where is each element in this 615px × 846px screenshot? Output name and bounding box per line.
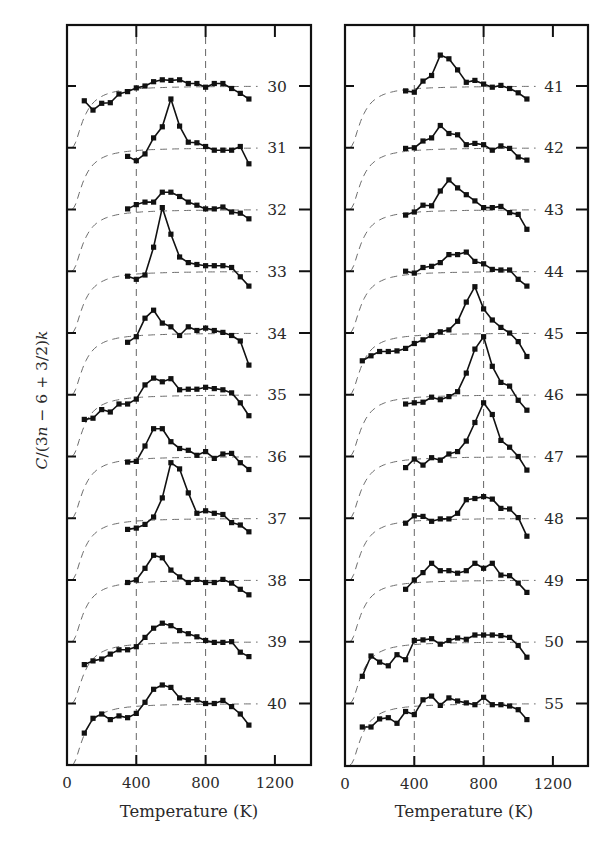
square-marker (177, 695, 182, 700)
square-marker (524, 158, 529, 163)
square-marker (438, 568, 443, 573)
square-marker (472, 284, 477, 289)
square-marker (168, 376, 173, 381)
square-marker (125, 647, 130, 652)
x-axis-label-left: Temperature (K) (120, 802, 259, 821)
square-marker (455, 389, 460, 394)
square-marker (507, 445, 512, 450)
curve-n33: 33 (67, 205, 311, 333)
curve-label: 33 (267, 263, 287, 281)
square-marker (160, 190, 165, 195)
square-marker (125, 580, 130, 585)
square-marker (412, 209, 417, 214)
square-marker (194, 453, 199, 458)
square-marker (377, 716, 382, 721)
curve-label: 42 (544, 139, 564, 157)
square-marker (446, 177, 451, 182)
left-panel: 303132333435363738394004008001200 (62, 25, 311, 792)
square-marker (142, 83, 147, 88)
square-marker (220, 148, 225, 153)
curve-n45: 45 (345, 284, 588, 394)
curve-label: 39 (267, 633, 287, 651)
square-marker (116, 713, 121, 718)
harmonic-reference-line (350, 580, 535, 641)
data-line (362, 696, 527, 727)
square-marker (246, 284, 251, 289)
square-marker (246, 413, 251, 418)
square-marker (498, 83, 503, 88)
square-marker (142, 700, 147, 705)
square-marker (516, 154, 521, 159)
square-marker (360, 724, 365, 729)
harmonic-reference-line (350, 272, 535, 333)
square-marker (134, 644, 139, 649)
square-marker (238, 274, 243, 279)
square-marker (464, 142, 469, 147)
square-marker (186, 200, 191, 205)
square-marker (134, 526, 139, 531)
square-marker (246, 592, 251, 597)
square-marker (420, 637, 425, 642)
square-marker (498, 325, 503, 330)
square-marker (220, 698, 225, 703)
square-marker (194, 81, 199, 86)
harmonic-reference-line (72, 642, 257, 703)
square-marker (464, 250, 469, 255)
square-marker (429, 694, 434, 699)
data-line (128, 192, 249, 219)
square-marker (516, 277, 521, 282)
square-marker (99, 656, 104, 661)
square-marker (455, 571, 460, 576)
square-marker (203, 580, 208, 585)
square-marker (194, 328, 199, 333)
square-marker (177, 77, 182, 82)
square-marker (472, 141, 477, 146)
square-marker (429, 519, 434, 524)
square-marker (368, 653, 373, 658)
square-marker (368, 724, 373, 729)
square-marker (490, 148, 495, 153)
curve-label: 44 (544, 263, 564, 281)
square-marker (507, 86, 512, 91)
square-marker (516, 454, 521, 459)
square-marker (455, 252, 460, 257)
square-marker (90, 658, 95, 663)
square-marker (420, 337, 425, 342)
square-marker (194, 697, 199, 702)
harmonic-reference-line (350, 704, 535, 765)
square-marker (524, 468, 529, 473)
square-marker (472, 496, 477, 501)
square-marker (229, 581, 234, 586)
square-marker (186, 324, 191, 329)
square-marker (160, 205, 165, 210)
square-marker (238, 522, 243, 527)
curve-n38: 38 (67, 553, 311, 642)
square-marker (481, 205, 486, 210)
square-marker (177, 446, 182, 451)
square-marker (194, 634, 199, 639)
square-marker (220, 387, 225, 392)
x-tick-label: 1200 (534, 775, 572, 793)
square-marker (412, 712, 417, 717)
square-marker (498, 380, 503, 385)
square-marker (524, 408, 529, 413)
square-marker (220, 330, 225, 335)
square-marker (490, 317, 495, 322)
square-marker (464, 637, 469, 642)
square-marker (194, 203, 199, 208)
square-marker (481, 400, 486, 405)
square-marker (420, 265, 425, 270)
curve-label: 50 (544, 633, 564, 651)
square-marker (177, 466, 182, 471)
curve-label: 46 (544, 386, 564, 404)
square-marker (464, 700, 469, 705)
square-marker (203, 326, 208, 331)
square-marker (108, 717, 113, 722)
square-marker (360, 674, 365, 679)
square-marker (490, 85, 495, 90)
square-marker (186, 490, 191, 495)
square-marker (498, 438, 503, 443)
square-marker (481, 142, 486, 147)
chart-canvas: 303132333435363738394004008001200 414243… (0, 0, 615, 846)
square-marker (438, 260, 443, 265)
